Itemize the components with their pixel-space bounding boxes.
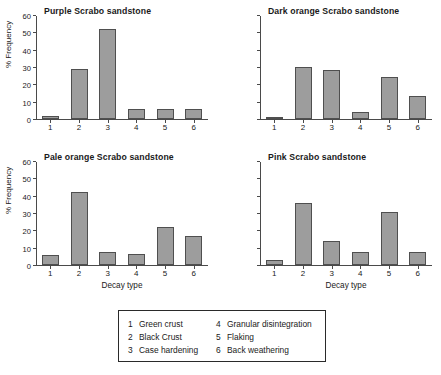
x-axis-tick-label: 2 <box>301 269 305 278</box>
bar <box>42 255 59 265</box>
y-axis-tick <box>33 32 36 33</box>
bar <box>42 116 59 119</box>
bar <box>128 109 145 119</box>
y-axis-tick <box>257 15 260 16</box>
x-axis-line <box>36 119 208 120</box>
plot-area: 123456 <box>260 162 432 266</box>
bar <box>295 67 312 119</box>
legend-item-number: 1 <box>128 318 139 330</box>
y-axis-tick <box>257 50 260 51</box>
y-axis-tick <box>33 196 36 197</box>
x-axis-tick-label: 2 <box>77 269 81 278</box>
y-axis-tick <box>33 161 36 162</box>
x-axis-tick-label: 3 <box>105 269 109 278</box>
legend-box: 1Green crust2Black Crust3Case hardening … <box>118 310 326 362</box>
legend-item: 4Granular disintegration <box>216 318 312 330</box>
bar <box>157 227 174 265</box>
x-axis-title: Decay type <box>260 281 432 290</box>
legend-item: 3Case hardening <box>128 344 216 356</box>
chart-title: Pale orange Scrabo sandstone <box>44 152 174 162</box>
x-axis-line <box>36 265 208 266</box>
chart-panel-pale-orange: Pale orange Scrabo sandstone% Frequency0… <box>2 148 214 293</box>
bar <box>352 112 369 119</box>
bar <box>157 109 174 119</box>
x-axis-tick-label: 6 <box>191 123 195 132</box>
y-axis-tick <box>33 178 36 179</box>
y-axis-line <box>260 162 261 266</box>
legend-item-label: Back weathering <box>227 344 289 356</box>
legend-item-number: 3 <box>128 344 139 356</box>
bar <box>185 109 202 119</box>
bar <box>352 252 369 265</box>
y-axis-tick <box>33 265 36 266</box>
y-axis-tick <box>257 230 260 231</box>
y-axis-title: % Frequency <box>4 21 13 68</box>
y-axis-tick <box>33 84 36 85</box>
legend-columns: 1Green crust2Black Crust3Case hardening … <box>128 318 319 356</box>
y-axis-line <box>36 162 37 266</box>
bar <box>185 236 202 265</box>
y-axis-tick <box>257 196 260 197</box>
x-axis-tick-label: 1 <box>272 123 276 132</box>
x-axis-tick-label: 1 <box>48 123 52 132</box>
y-axis-tick-label: 30 <box>23 210 31 219</box>
x-axis-tick-label: 4 <box>134 123 138 132</box>
x-axis-tick-label: 2 <box>301 123 305 132</box>
y-axis-tick-label: 10 <box>23 98 31 107</box>
y-axis-tick <box>257 84 260 85</box>
y-axis-tick <box>257 32 260 33</box>
bar <box>99 252 116 265</box>
chart-panel-dark-orange: Dark orange Scrabo sandstone% Frequency1… <box>226 2 438 147</box>
y-axis-tick <box>257 67 260 68</box>
y-axis-tick-label: 50 <box>23 175 31 184</box>
y-axis-tick <box>257 178 260 179</box>
y-axis-tick <box>257 213 260 214</box>
bar <box>99 29 116 119</box>
y-axis-tick-label: 50 <box>23 29 31 38</box>
x-axis-tick-label: 4 <box>358 269 362 278</box>
legend-item-number: 4 <box>216 318 227 330</box>
y-axis-tick <box>33 213 36 214</box>
x-axis-tick-label: 5 <box>163 269 167 278</box>
chart-title: Purple Scrabo sandstone <box>44 6 151 16</box>
bar <box>323 70 340 119</box>
x-axis-tick-label: 6 <box>415 123 419 132</box>
bar <box>128 254 145 265</box>
bar <box>295 203 312 265</box>
legend-item: 2Black Crust <box>128 331 216 343</box>
legend-item-number: 2 <box>128 331 139 343</box>
legend-item: 5Flaking <box>216 331 312 343</box>
x-axis-tick-label: 4 <box>358 123 362 132</box>
legend-item-label: Case hardening <box>139 344 198 356</box>
y-axis-tick <box>257 102 260 103</box>
y-axis-tick-label: 40 <box>23 46 31 55</box>
y-axis-tick <box>33 230 36 231</box>
legend-item: 6Back weathering <box>216 344 312 356</box>
y-axis-tick-label: 0 <box>27 262 31 271</box>
x-axis-line <box>260 119 432 120</box>
x-axis-tick-label: 1 <box>48 269 52 278</box>
plot-area: 0102030405060123456 <box>36 16 208 120</box>
legend-column-right: 4Granular disintegration5Flaking6Back we… <box>216 318 312 356</box>
legend-item: 1Green crust <box>128 318 216 330</box>
chart-panel-purple: Purple Scrabo sandstone% Frequency010203… <box>2 2 214 147</box>
y-axis-tick <box>33 248 36 249</box>
y-axis-title: % Frequency <box>4 167 13 214</box>
y-axis-tick-label: 20 <box>23 81 31 90</box>
plot-area: 0102030405060123456 <box>36 162 208 266</box>
x-axis-line <box>260 265 432 266</box>
plot-area: 123456 <box>260 16 432 120</box>
x-axis-tick-label: 2 <box>77 123 81 132</box>
bar <box>71 192 88 265</box>
legend-item-number: 6 <box>216 344 227 356</box>
y-axis-tick <box>33 15 36 16</box>
x-axis-title: Decay type <box>36 281 208 290</box>
y-axis-tick <box>257 161 260 162</box>
x-axis-tick-label: 3 <box>105 123 109 132</box>
bar <box>381 77 398 119</box>
bar <box>323 241 340 265</box>
x-axis-tick-label: 6 <box>415 269 419 278</box>
legend-item-label: Granular disintegration <box>227 318 312 330</box>
chart-title: Dark orange Scrabo sandstone <box>268 6 399 16</box>
chart-title: Pink Scrabo sandstone <box>268 152 366 162</box>
